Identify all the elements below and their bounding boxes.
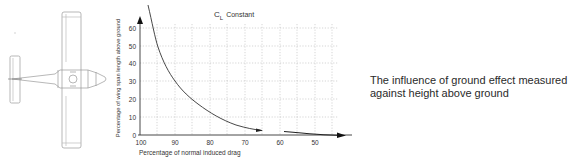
airplane-illustration	[8, 12, 106, 148]
ground-effect-figure: 0 10 20 30 40 50 60 100 90 80 70 60 50 P…	[0, 0, 582, 165]
y-tick: 10	[129, 114, 137, 121]
chart: 0 10 20 30 40 50 60 100 90 80 70 60 50 P…	[115, 5, 352, 157]
y-tick: 0	[132, 132, 136, 139]
x-tick: 50	[311, 139, 319, 146]
y-tick: 20	[129, 96, 137, 103]
x-tick: 70	[241, 139, 249, 146]
x-tick: 60	[276, 139, 284, 146]
y-axis-label: Percentage of wing span length above gro…	[115, 19, 121, 137]
y-tick-labels: 0 10 20 30 40 50 60	[129, 25, 137, 139]
chart-grid	[140, 24, 338, 135]
x-tick: 90	[171, 139, 179, 146]
y-tick: 50	[129, 43, 137, 50]
y-tick: 60	[129, 25, 137, 32]
y-axis-arrow-icon	[137, 16, 143, 24]
x-tick: 80	[206, 139, 214, 146]
figure-caption: The influence of ground effect measured …	[370, 74, 582, 100]
airplane-wing	[62, 12, 81, 148]
x-tick-labels: 100 90 80 70 60 50	[136, 139, 319, 146]
y-tick: 30	[129, 78, 137, 85]
chart-title: CLConstant	[214, 10, 254, 21]
x-tick: 100	[136, 139, 147, 146]
trend-arrow-head-icon	[337, 133, 346, 139]
airplane-fuselage	[12, 70, 106, 88]
y-tick: 40	[129, 60, 137, 67]
x-axis-label: Percentage of normal induced drag	[139, 149, 241, 157]
